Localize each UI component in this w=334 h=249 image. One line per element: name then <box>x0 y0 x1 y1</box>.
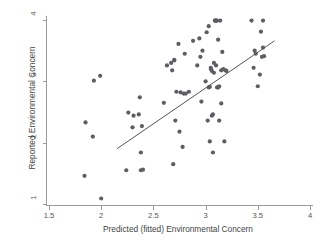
data-point <box>99 196 103 200</box>
data-point <box>173 118 177 122</box>
data-point <box>170 68 174 72</box>
data-point <box>214 63 218 67</box>
x-tick-label: 3.5 <box>244 211 272 220</box>
data-point <box>139 150 143 154</box>
data-point <box>256 84 260 88</box>
data-point <box>206 118 210 122</box>
data-point <box>191 39 195 43</box>
data-point <box>141 168 145 172</box>
data-point <box>165 63 169 67</box>
data-point <box>216 38 220 42</box>
x-tick-label: 2.5 <box>139 211 167 220</box>
data-point <box>207 24 211 28</box>
data-point <box>124 168 128 172</box>
data-point <box>177 130 181 134</box>
data-point <box>140 124 144 128</box>
data-point <box>83 120 87 124</box>
scatter-plot-figure: 1.522.533.541234Predicted (fitted) Envir… <box>0 0 334 249</box>
data-point <box>187 90 191 94</box>
data-point <box>174 90 178 94</box>
data-point <box>198 55 202 59</box>
data-point <box>126 111 130 115</box>
x-axis-title: Predicted (fitted) Environmental Concern <box>0 224 334 234</box>
data-point <box>259 30 263 34</box>
x-tick-label: 2 <box>87 211 115 220</box>
data-point <box>261 19 265 23</box>
data-point <box>138 95 142 99</box>
regression-line <box>117 41 275 149</box>
data-point <box>162 101 166 105</box>
x-tick-label: 3 <box>192 211 220 220</box>
data-point <box>262 54 266 58</box>
data-point <box>217 118 221 122</box>
data-point <box>195 63 199 67</box>
data-point <box>249 19 253 23</box>
data-point <box>171 162 175 166</box>
data-point <box>211 150 215 154</box>
data-point <box>181 145 185 149</box>
x-tick-label: 4 <box>296 211 324 220</box>
data-point <box>131 114 135 118</box>
data-point <box>200 49 204 53</box>
data-point <box>208 139 212 143</box>
data-point <box>92 79 96 83</box>
data-point <box>222 139 226 143</box>
data-point <box>220 50 224 54</box>
y-axis-title: Reported Environmental Concern <box>27 13 37 203</box>
data-point <box>212 71 216 75</box>
x-tick-label: 1.5 <box>35 211 63 220</box>
data-point <box>137 112 141 116</box>
data-point <box>219 101 223 105</box>
data-point <box>199 99 203 103</box>
data-point <box>252 66 256 70</box>
data-point <box>205 30 209 34</box>
data-point <box>218 19 222 23</box>
fit-line <box>117 41 275 149</box>
data-point <box>211 112 215 116</box>
data-point <box>172 58 176 62</box>
data-point <box>82 174 86 178</box>
data-point <box>91 134 95 138</box>
axis-ticks <box>43 21 311 210</box>
data-point <box>197 36 201 40</box>
data-point <box>98 74 102 78</box>
data-point <box>217 84 221 88</box>
data-point <box>183 52 187 56</box>
data-point <box>130 125 134 129</box>
data-point <box>176 42 180 46</box>
data-point <box>258 72 262 76</box>
data-point <box>204 79 208 83</box>
